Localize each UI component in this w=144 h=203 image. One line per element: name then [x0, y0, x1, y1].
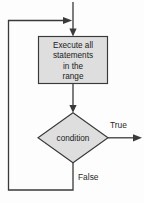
decision-node: condition	[38, 113, 108, 163]
decision-node-label: condition	[57, 134, 90, 143]
false-branch-label: False	[78, 172, 99, 182]
process-node: Execute all statements in the range	[39, 37, 108, 84]
process-to-decision-connector	[69, 84, 76, 113]
true-branch-label: True	[110, 120, 127, 130]
process-line-3: in the	[63, 62, 83, 71]
true-branch-arrowhead	[133, 134, 142, 141]
process-to-decision-arrowhead	[69, 105, 76, 113]
flowchart-svg: Execute all statements in the range cond…	[0, 0, 144, 203]
process-line-2: statements	[53, 51, 93, 60]
entry-connector	[69, 2, 76, 37]
true-branch-connector	[108, 134, 142, 141]
false-branch-arrowhead	[63, 17, 72, 24]
process-line-4: range	[63, 72, 84, 81]
process-line-1: Execute all	[53, 41, 93, 50]
entry-arrowhead	[69, 29, 76, 37]
flowchart-canvas: Execute all statements in the range cond…	[0, 0, 144, 203]
